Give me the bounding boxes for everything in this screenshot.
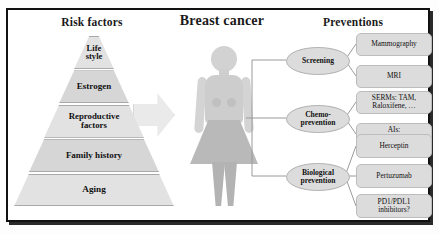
page-title: Breast cancer (158, 13, 286, 29)
prevention-item-box[interactable]: Mammography (356, 33, 432, 56)
figure-leg-right (224, 162, 237, 206)
pyramid-tier: Lifestyle (14, 36, 174, 69)
figure-leg-left (212, 162, 225, 206)
prevention-item-box[interactable]: SERMs: TAM,Raloxifene, … (356, 91, 432, 114)
prevention-item-box[interactable]: PD1/PDL1inhibitors? (356, 194, 432, 218)
prevention-item-box[interactable]: Herceptin (356, 134, 432, 158)
pyramid-tier: Family history (14, 139, 174, 172)
prevention-branch-node[interactable]: Biologicalprevention (286, 163, 350, 191)
prevention-item-box[interactable]: MRI (356, 65, 432, 88)
pyramid-tier-label: Reproductivefactors (69, 112, 120, 130)
pyramid-tier-label: Family history (66, 151, 122, 160)
pyramid-tier: Estrogen (14, 70, 174, 103)
figure-breast-left (212, 98, 221, 107)
prevention-item-box[interactable]: Pertuzumab (356, 164, 432, 188)
column-header-risk-factors: Risk factors (22, 16, 162, 28)
pyramid-tier-label: Lifestyle (86, 44, 103, 62)
figure-breast-right (227, 98, 236, 107)
pyramid-tier: Aging (14, 174, 174, 207)
prevention-branch-node[interactable]: Chemo-prevention (286, 105, 350, 133)
pyramid-tier-label: Aging (82, 185, 106, 194)
figure-torso (205, 75, 243, 123)
column-header-preventions: Preventions (288, 16, 418, 28)
prevention-branch-node[interactable]: Screening (286, 47, 350, 75)
diagram-canvas: Risk factors Breast cancer Preventions L… (0, 0, 439, 234)
pyramid-tier-label: Estrogen (77, 82, 111, 91)
prevention-tree: ScreeningMammographyMRIChemo-preventionS… (244, 30, 434, 210)
